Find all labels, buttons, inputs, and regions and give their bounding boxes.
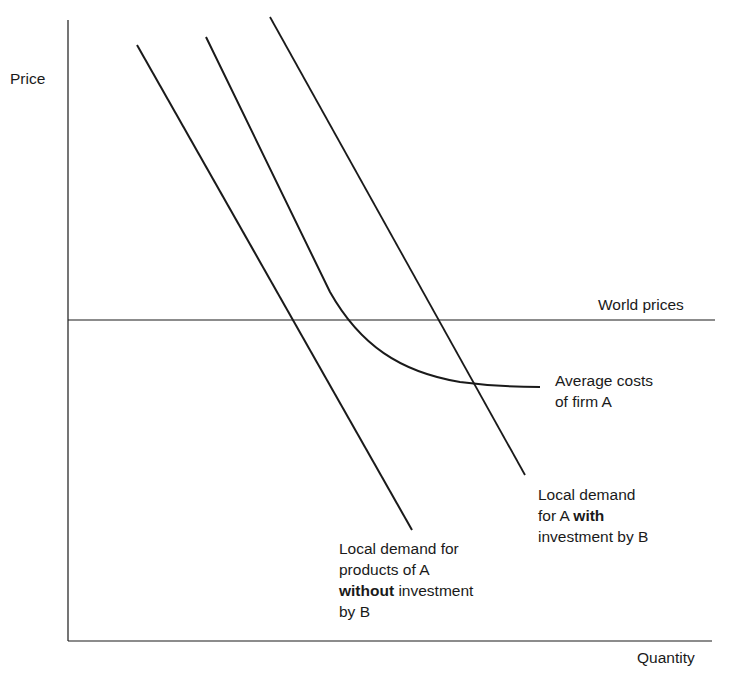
world-prices-label: World prices — [598, 294, 684, 315]
demand-without-label: Local demand for products of A without i… — [339, 538, 473, 622]
demand-with-label-bold: with — [573, 507, 604, 524]
y-axis-label: Price — [10, 68, 45, 89]
average-costs-curve — [206, 37, 540, 387]
demand-without-label-line2: products of A — [339, 559, 473, 580]
average-costs-label-line2: of firm A — [555, 391, 653, 412]
demand-without-label-line4: by B — [339, 601, 473, 622]
demand-without-label-line3-suffix: investment — [394, 582, 473, 599]
demand-without-label-line1: Local demand for — [339, 538, 473, 559]
demand-without-label-bold: without — [339, 582, 394, 599]
demand-without-line — [137, 45, 412, 530]
average-costs-label: Average costs of firm A — [555, 370, 653, 412]
demand-with-label-line1: Local demand — [538, 484, 648, 505]
demand-with-label-line2-prefix: for A — [538, 507, 573, 524]
demand-with-label: Local demand for A with investment by B — [538, 484, 648, 547]
x-axis-label: Quantity — [637, 647, 695, 668]
average-costs-label-line1: Average costs — [555, 370, 653, 391]
demand-with-label-line3: investment by B — [538, 526, 648, 547]
